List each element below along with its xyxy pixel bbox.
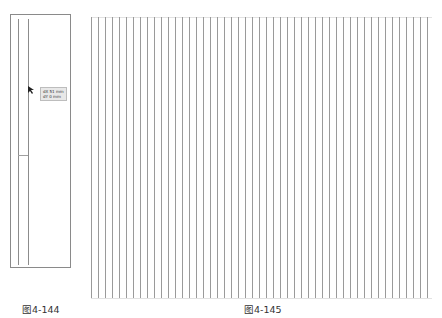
vertical-line bbox=[364, 17, 365, 298]
vertical-line bbox=[294, 17, 295, 298]
horizontal-tick bbox=[18, 155, 28, 156]
vertical-line bbox=[371, 17, 372, 298]
drawing-canvas-left[interactable] bbox=[10, 14, 71, 268]
vertical-line bbox=[343, 17, 344, 298]
vertical-line bbox=[322, 17, 323, 298]
vertical-line bbox=[245, 17, 246, 298]
vertical-line-1 bbox=[18, 19, 19, 265]
vertical-line bbox=[196, 17, 197, 298]
vertical-line bbox=[273, 17, 274, 298]
drawing-canvas-right[interactable] bbox=[91, 17, 432, 299]
vertical-line bbox=[385, 17, 386, 298]
vertical-line bbox=[133, 17, 134, 298]
vertical-line bbox=[189, 17, 190, 298]
tooltip-dy: dY 0 mm bbox=[43, 94, 64, 99]
vertical-line bbox=[210, 17, 211, 298]
vertical-line bbox=[280, 17, 281, 298]
vertical-line bbox=[399, 17, 400, 298]
vertical-line bbox=[126, 17, 127, 298]
vertical-line bbox=[175, 17, 176, 298]
measurement-tooltip: dX 51 mm dY 0 mm bbox=[40, 87, 67, 101]
vertical-line bbox=[336, 17, 337, 298]
vertical-line bbox=[238, 17, 239, 298]
vertical-line bbox=[140, 17, 141, 298]
vertical-line bbox=[406, 17, 407, 298]
vertical-line bbox=[315, 17, 316, 298]
vertical-line bbox=[224, 17, 225, 298]
vertical-line bbox=[301, 17, 302, 298]
vertical-line bbox=[168, 17, 169, 298]
vertical-line bbox=[147, 17, 148, 298]
vertical-line bbox=[161, 17, 162, 298]
vertical-line bbox=[182, 17, 183, 298]
vertical-line bbox=[420, 17, 421, 298]
vertical-line bbox=[413, 17, 414, 298]
vertical-line bbox=[266, 17, 267, 298]
vertical-line bbox=[350, 17, 351, 298]
vertical-line bbox=[357, 17, 358, 298]
vertical-line bbox=[203, 17, 204, 298]
vertical-line bbox=[231, 17, 232, 298]
vertical-line bbox=[329, 17, 330, 298]
vertical-line bbox=[119, 17, 120, 298]
vertical-line bbox=[378, 17, 379, 298]
vertical-line bbox=[308, 17, 309, 298]
vertical-line bbox=[98, 17, 99, 298]
figure-caption-left: 图4-144 bbox=[22, 302, 60, 316]
vertical-line bbox=[154, 17, 155, 298]
vertical-line bbox=[259, 17, 260, 298]
bottom-edge bbox=[91, 298, 432, 299]
vertical-line bbox=[217, 17, 218, 298]
figure-caption-right: 图4-145 bbox=[244, 302, 282, 316]
vertical-line bbox=[427, 17, 428, 298]
vertical-line bbox=[252, 17, 253, 298]
vertical-line-2 bbox=[28, 19, 29, 265]
vertical-line bbox=[105, 17, 106, 298]
vertical-line bbox=[112, 17, 113, 298]
vertical-line bbox=[91, 17, 92, 298]
vertical-line bbox=[392, 17, 393, 298]
vertical-line bbox=[287, 17, 288, 298]
top-edge bbox=[91, 17, 432, 18]
